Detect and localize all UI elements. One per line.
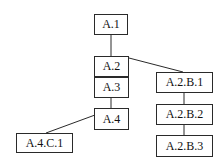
node-a4c1: A.4.C.1 <box>16 133 73 153</box>
node-label: A.4.C.1 <box>26 136 64 151</box>
node-a4: A.4 <box>94 108 129 130</box>
node-label: A.2.B.2 <box>166 107 204 122</box>
node-label: A.2.B.1 <box>166 75 204 90</box>
node-a1: A.1 <box>94 14 128 35</box>
node-a2b1: A.2.B.1 <box>156 72 213 93</box>
node-label: A.4 <box>103 112 121 127</box>
node-label: A.2 <box>103 59 121 74</box>
edge-a4-a4c1 <box>46 115 95 133</box>
edge-a2-a2b1 <box>129 58 183 72</box>
node-label: A.2.B.3 <box>166 139 204 154</box>
node-label: A.1 <box>102 17 120 32</box>
node-a2b2: A.2.B.2 <box>156 104 213 125</box>
node-a2b3: A.2.B.3 <box>156 135 213 157</box>
node-a3: A.3 <box>94 77 129 98</box>
node-a2: A.2 <box>94 56 129 77</box>
node-label: A.3 <box>103 80 121 95</box>
